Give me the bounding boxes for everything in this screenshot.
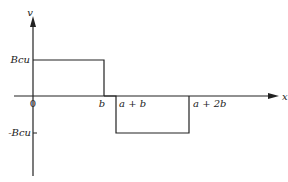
origin-label: 0 — [30, 98, 36, 109]
step-function-diagram: v x Bcu -Bcu 0 b a + b a + 2b — [0, 0, 288, 182]
x-axis-arrow-icon — [268, 93, 279, 99]
x-axis-label: x — [282, 91, 288, 102]
b-label: b — [99, 98, 105, 109]
negative-pulse — [104, 96, 189, 133]
neg-bcu-label: -Bcu — [8, 127, 31, 138]
a-plus-2b-label: a + 2b — [193, 98, 226, 109]
a-plus-b-label: a + b — [119, 98, 146, 109]
bcu-label: Bcu — [10, 54, 30, 65]
positive-pulse — [33, 60, 104, 96]
y-axis-label: v — [27, 7, 33, 18]
